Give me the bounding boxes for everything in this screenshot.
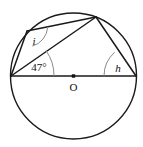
angle-label-47: 47° — [31, 61, 46, 73]
circle-geometry-figure: i 47° h O — [0, 0, 143, 147]
center-label-O: O — [70, 81, 78, 93]
geometry-diagram: i 47° h O — [0, 0, 143, 147]
angle-label-i: i — [32, 35, 35, 47]
center-point-dot — [72, 74, 75, 77]
angle-arc-h — [104, 52, 115, 76]
angle-arc-47 — [46, 51, 54, 76]
angle-label-h: h — [115, 62, 121, 74]
chord-segment-AD — [11, 31, 27, 76]
